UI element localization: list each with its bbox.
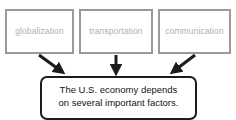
conclusion-box[interactable]: The U.S. economy depends on several impo… — [40, 76, 197, 120]
factor-label-transportation: transportation — [89, 27, 142, 36]
arrow-communication-to-conclusion — [174, 55, 195, 71]
factor-box-transportation[interactable]: transportation — [79, 9, 153, 54]
factor-label-globalization: globalization — [15, 27, 64, 36]
conclusion-line-1: The U.S. economy depends — [60, 83, 178, 96]
factor-box-communication[interactable]: communication — [158, 9, 231, 54]
concept-map-diagram: globalization transportation communicati… — [0, 0, 236, 120]
factor-box-globalization[interactable]: globalization — [5, 9, 74, 54]
arrow-globalization-to-conclusion — [39, 55, 61, 71]
conclusion-line-2: on several important factors. — [59, 96, 179, 109]
factor-label-communication: communication — [165, 27, 223, 36]
